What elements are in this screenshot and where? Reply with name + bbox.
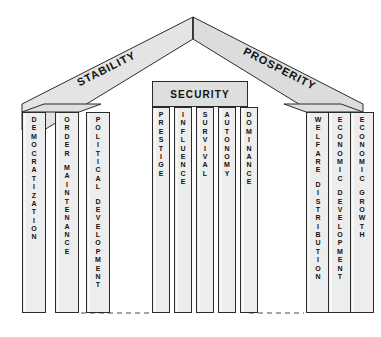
- pillar-label: INFLUENCE: [175, 111, 191, 187]
- pillar: INFLUENCE: [174, 107, 192, 313]
- pillar-label: SURVIVAL: [197, 111, 213, 178]
- pillar: ECONOMICGROWTH: [350, 112, 374, 313]
- pillar: WELFAREDISTRIBUTION: [306, 112, 330, 313]
- pillar: POLITICALDEVELOPMENT: [86, 112, 110, 313]
- pillar-label: POLITICALDEVELOPMENT: [87, 116, 109, 290]
- pillar-label: ORDERMAINTENANCE: [56, 116, 78, 256]
- pillar: SURVIVAL: [196, 107, 214, 313]
- pillar: ECONOMICDEVELOPMENT: [328, 112, 352, 313]
- pillar: AUTONOMY: [218, 107, 236, 313]
- diagram-canvas: STABILITY PROSPERITY SECURITY DEMOCRATIZ…: [0, 0, 381, 337]
- pillar-label: ECONOMICDEVELOPMENT: [329, 116, 351, 281]
- pillar: PRESTIGE: [152, 107, 170, 313]
- pillar: ORDERMAINTENANCE: [55, 112, 79, 313]
- pillar-label: PRESTIGE: [153, 111, 169, 178]
- pillar-label: DOMINANCE: [241, 111, 257, 187]
- security-lintel-label: SECURITY: [170, 89, 229, 100]
- security-lintel-box: SECURITY: [152, 81, 248, 107]
- pillar: DOMINANCE: [240, 107, 258, 313]
- pillar-label: WELFAREDISTRIBUTION: [307, 116, 329, 281]
- pillar-label: AUTONOMY: [219, 111, 235, 178]
- pillar: DEMOCRATIZATION: [22, 112, 46, 313]
- pillar-label: DEMOCRATIZATION: [23, 116, 45, 242]
- pillar-label: ECONOMICGROWTH: [351, 116, 373, 239]
